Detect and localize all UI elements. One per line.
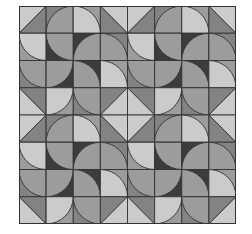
quilt-cell xyxy=(73,197,100,224)
quilt-cell xyxy=(128,197,155,224)
quilt-cell xyxy=(182,88,209,115)
quilt-cell xyxy=(182,115,209,142)
quilt-cell xyxy=(209,142,236,169)
quilt-cell xyxy=(73,170,100,197)
quilt-svg xyxy=(19,6,236,224)
quilt-cell xyxy=(155,33,182,60)
quilt-cell xyxy=(155,61,182,88)
quilt-cell xyxy=(73,115,100,142)
quilt-cell xyxy=(209,6,236,33)
quilt-cell xyxy=(128,61,155,88)
quilt-cell xyxy=(19,33,46,60)
quilt-cell xyxy=(128,115,155,142)
quilt-cell xyxy=(100,197,127,224)
quilt-cell xyxy=(46,170,73,197)
quilt-cell xyxy=(128,33,155,60)
quilt-cell xyxy=(46,115,73,142)
quilt-cell xyxy=(182,61,209,88)
quilt-cell xyxy=(100,142,127,169)
quilt-cell xyxy=(128,170,155,197)
quilt-cell xyxy=(100,88,127,115)
quilt-cell xyxy=(46,88,73,115)
quilt-cell xyxy=(155,197,182,224)
quilt-cell xyxy=(128,88,155,115)
quilt-cell xyxy=(128,6,155,33)
quilt-cell xyxy=(182,6,209,33)
quilt-cell xyxy=(100,115,127,142)
quilt-cell xyxy=(209,88,236,115)
quilt-cell xyxy=(128,142,155,169)
quilt-cell xyxy=(100,170,127,197)
quilt-cell xyxy=(73,33,100,60)
quilt-cell xyxy=(182,170,209,197)
quilt-cell xyxy=(19,197,46,224)
quilt-cell xyxy=(19,115,46,142)
quilt-cell xyxy=(209,170,236,197)
quilt-cell xyxy=(19,88,46,115)
quilt-cell xyxy=(73,142,100,169)
quilt-cell xyxy=(155,115,182,142)
quilt-cell xyxy=(46,142,73,169)
quilt-cell xyxy=(182,33,209,60)
quilt-cell xyxy=(209,61,236,88)
quilt-cell xyxy=(209,33,236,60)
quilt-cell xyxy=(155,170,182,197)
quilt-cell xyxy=(19,142,46,169)
quilt-cell xyxy=(209,197,236,224)
quilt-cell xyxy=(46,197,73,224)
quilt-cell xyxy=(73,88,100,115)
quilt-cell xyxy=(73,61,100,88)
quilt-cell xyxy=(46,6,73,33)
quilt-cell xyxy=(155,88,182,115)
quilt-cell xyxy=(73,6,100,33)
quilt-cell xyxy=(100,6,127,33)
quilt-cell xyxy=(19,170,46,197)
quilt-cell xyxy=(19,6,46,33)
quilt-cell xyxy=(155,6,182,33)
quilt-cell xyxy=(182,197,209,224)
quilt-cell xyxy=(155,142,182,169)
quilt-cell xyxy=(19,61,46,88)
quilt-cell xyxy=(209,115,236,142)
quilt-cell xyxy=(100,33,127,60)
quilt-cell xyxy=(182,142,209,169)
quilt-cell xyxy=(46,61,73,88)
quilt-cell xyxy=(100,61,127,88)
quilt-cell xyxy=(46,33,73,60)
quilt-pattern-image xyxy=(19,6,236,224)
